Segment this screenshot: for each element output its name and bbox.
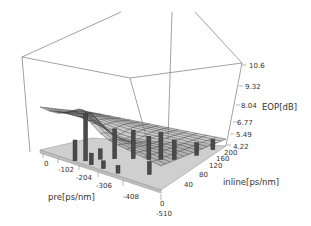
z-axis: 10.6 9.32 8.04 6.77 5.49 4.22 EOP[dB] (227, 62, 297, 151)
x-tick: 0 (44, 160, 48, 168)
x-axis-label: pre[ps/nm] (48, 192, 95, 202)
data-bar (147, 136, 151, 159)
data-bar (147, 162, 151, 175)
data-bar (84, 114, 88, 161)
data-bar (116, 165, 120, 173)
data-bar (89, 153, 93, 165)
y-tick: 120 (209, 162, 222, 170)
data-bar (131, 130, 135, 159)
z-tick: 8.04 (241, 102, 257, 110)
y-tick: 40 (184, 181, 193, 189)
surface-plot-3d: 10.6 9.32 8.04 6.77 5.49 4.22 EOP[dB] 40… (0, 0, 311, 226)
x-tick: -102 (58, 166, 74, 174)
y-tick: 80 (199, 171, 208, 179)
y-tick: 200 (224, 149, 237, 157)
z-axis-label: EOP[dB] (262, 102, 297, 112)
z-tick: 5.49 (236, 131, 252, 139)
data-bar (159, 132, 163, 159)
x-tick: -306 (96, 182, 112, 190)
data-bar (172, 140, 176, 160)
data-bar (195, 142, 199, 155)
x-tick: -204 (76, 174, 92, 182)
data-bar (98, 149, 102, 159)
x-tick: -510 (156, 210, 172, 218)
z-tick: 10.6 (249, 62, 265, 70)
z-tick: 9.32 (245, 83, 261, 91)
x-tick: 0 (160, 200, 164, 208)
data-bar (73, 140, 77, 161)
data-bar (113, 129, 117, 159)
x-tick: -408 (123, 193, 139, 201)
y-axis-label: inline[ps/nm] (223, 177, 279, 187)
data-bar (101, 161, 105, 169)
data-bar (211, 139, 215, 149)
z-tick: 6.77 (237, 119, 253, 127)
